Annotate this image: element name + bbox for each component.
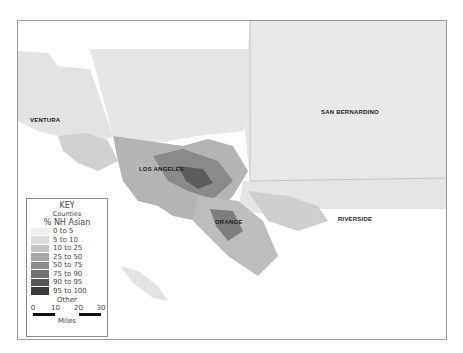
legend-class-label: 0 to 5 xyxy=(53,227,73,235)
county-los-angeles-north xyxy=(90,49,250,146)
legend-class-row: 75 to 90 xyxy=(31,270,107,279)
scale-tick: 30 xyxy=(97,304,106,312)
legend-swatch xyxy=(31,287,49,295)
county-label-riverside: RIVERSIDE xyxy=(338,216,372,222)
legend-class-row: 90 to 95 xyxy=(31,278,107,287)
scale-segment-dark xyxy=(79,313,101,316)
legend-swatch xyxy=(31,262,49,270)
legend-swatch xyxy=(31,253,49,261)
legend-class-label: 10 to 25 xyxy=(53,244,82,252)
legend-class-row: 10 to 25 xyxy=(31,244,107,253)
legend-class-label: 25 to 50 xyxy=(53,253,82,261)
legend-swatch xyxy=(31,245,49,253)
legend-swatch xyxy=(31,236,49,244)
county-label-orange: ORANGE xyxy=(215,219,243,225)
legend-class-label: 50 to 75 xyxy=(53,261,82,269)
legend-class-label: 95 to 100 xyxy=(53,287,87,295)
scale-segment-dark xyxy=(33,313,55,316)
legend-class-label: 90 to 95 xyxy=(53,278,82,286)
scale-unit: Miles xyxy=(33,317,101,325)
legend-field-label: % NH Asian xyxy=(27,218,107,227)
legend-counties-label: Counties xyxy=(27,210,107,218)
legend-swatch xyxy=(31,228,49,236)
county-label-los-angeles: LOS ANGELES xyxy=(139,166,184,172)
county-san-bernardino xyxy=(243,21,447,181)
map-legend: KEY Counties % NH Asian 0 to 5 5 to 10 1… xyxy=(26,198,108,337)
legend-class-row: 0 to 5 xyxy=(31,227,107,236)
county-label-san-bernardino: SAN BERNARDINO xyxy=(321,109,379,115)
legend-class-row: 25 to 50 xyxy=(31,253,107,262)
legend-title: KEY xyxy=(27,201,107,210)
county-label-ventura: VENTURA xyxy=(30,117,60,123)
legend-class-row: 5 to 10 xyxy=(31,236,107,245)
legend-other-label: Other xyxy=(27,296,107,304)
legend-class-row: 50 to 75 xyxy=(31,261,107,270)
legend-class-row: 95 to 100 xyxy=(31,287,107,296)
legend-swatch xyxy=(31,270,49,278)
scale-tick: 0 xyxy=(31,304,35,312)
legend-class-label: 75 to 90 xyxy=(53,270,82,278)
scale-bar: 0 10 20 30 Miles xyxy=(33,304,101,328)
scale-tick: 10 xyxy=(51,304,60,312)
legend-swatch xyxy=(31,279,49,287)
map-frame: VENTURA LOS ANGELES SAN BERNARDINO ORANG… xyxy=(17,20,447,340)
legend-class-label: 5 to 10 xyxy=(53,236,78,244)
scale-segment-light xyxy=(55,313,78,316)
scale-tick: 20 xyxy=(74,304,83,312)
